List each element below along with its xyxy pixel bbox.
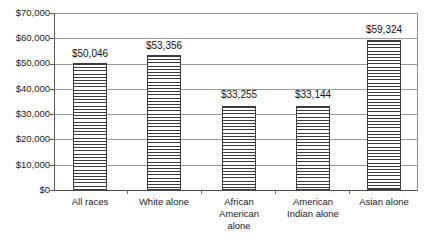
category-label-line: Asian alone (342, 196, 426, 208)
bar-asian-alone (367, 40, 401, 190)
y-axis-tick-label: $70,000 (4, 8, 50, 18)
category-label-line: All races (48, 196, 132, 208)
x-axis-tick-mark (275, 190, 276, 194)
bar-white-alone (147, 55, 181, 190)
y-axis-labels: $70,000 $60,000 $50,000 $40,000 $30,000 … (0, 0, 50, 247)
x-axis-tick-mark (201, 190, 202, 194)
gridline (54, 13, 418, 14)
x-axis-category-label-white-alone: White alone (122, 196, 206, 208)
x-axis-category-label-asian-alone: Asian alone (342, 196, 426, 208)
x-axis-baseline (54, 190, 418, 191)
bar-value-label: $33,144 (278, 89, 348, 100)
plot-area (54, 13, 418, 190)
bar-value-label: $59,324 (349, 24, 419, 35)
category-label-line: African (197, 196, 281, 208)
y-axis-tick-label: $50,000 (4, 58, 50, 68)
bar-african-american-alone (222, 106, 256, 190)
gridline (54, 64, 418, 65)
category-label-line: Indian alone (271, 208, 355, 220)
bar-chart: $70,000 $60,000 $50,000 $40,000 $30,000 … (0, 0, 429, 247)
y-axis-tick-label: $10,000 (4, 160, 50, 170)
bar-value-label: $53,356 (129, 40, 199, 51)
plot-right-border (417, 13, 418, 191)
category-label-line: alone (197, 220, 281, 232)
bar-value-label: $33,255 (204, 89, 274, 100)
x-axis-category-label-all-races: All races (48, 196, 132, 208)
y-axis-tick-label: $30,000 (4, 109, 50, 119)
x-axis-tick-mark (127, 190, 128, 194)
y-axis-line (54, 13, 55, 191)
gridline (54, 38, 418, 39)
y-axis-tick-label: $20,000 (4, 134, 50, 144)
bar-american-indian-alone (296, 106, 330, 190)
y-axis-tick-label: $40,000 (4, 84, 50, 94)
x-axis-tick-mark (349, 190, 350, 194)
bar-value-label: $50,046 (55, 48, 125, 59)
category-label-line: American (197, 208, 281, 220)
x-axis-category-label-african-american-alone: African American alone (197, 196, 281, 232)
bar-all-races (73, 63, 107, 190)
category-label-line: White alone (122, 196, 206, 208)
y-axis-tick-label: $0 (4, 185, 50, 195)
y-axis-tick-label: $60,000 (4, 33, 50, 43)
